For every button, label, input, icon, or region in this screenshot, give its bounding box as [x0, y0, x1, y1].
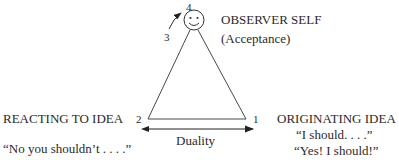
vertex-label-4: 4	[186, 0, 192, 15]
originating-quote-1: “I should. . . .”	[296, 127, 373, 142]
originating-title: ORIGINATING IDEA	[277, 111, 396, 126]
reacting-quote: “No you shouldn’t . . . .”	[3, 141, 131, 156]
originating-quote-2: “Yes! I should!”	[294, 143, 379, 158]
vertex-label-1: 1	[253, 112, 259, 127]
vertex-label-3: 3	[164, 30, 170, 45]
vertex-label-2: 2	[136, 112, 142, 127]
rotation-arrow-icon	[169, 13, 181, 29]
observer-subtitle: (Acceptance)	[221, 31, 290, 46]
observer-title: OBSERVER SELF	[221, 12, 321, 27]
reacting-title: REACTING TO IDEA	[3, 111, 123, 126]
duality-label: Duality	[176, 133, 215, 148]
